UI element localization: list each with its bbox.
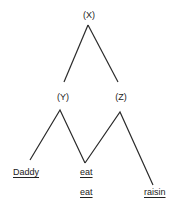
word-eat-1: eat (80, 167, 93, 177)
edge-x-y (64, 25, 88, 82)
word-daddy: Daddy (13, 167, 39, 177)
edge-z-branches (85, 112, 153, 185)
node-y-label: (Y) (57, 92, 69, 102)
word-raisin: raisin (144, 187, 166, 197)
tree-diagram (0, 0, 179, 209)
edge-y-branches (30, 110, 85, 163)
node-z-label: (Z) (115, 92, 127, 102)
word-eat-2: eat (80, 187, 93, 197)
edge-x-z (88, 25, 118, 82)
node-x-label: (X) (83, 10, 95, 20)
